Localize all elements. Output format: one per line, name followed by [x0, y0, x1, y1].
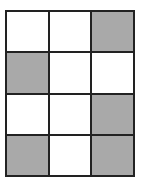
grid-cell-r4-c2-empty [50, 136, 91, 175]
shading-grid [5, 10, 135, 177]
grid-cell-r2-c1-shaded [7, 53, 48, 92]
grid-cell-r3-c1-empty [7, 95, 48, 134]
grid-cell-r4-c3-shaded [92, 136, 133, 175]
grid-cell-r4-c1-shaded [7, 136, 48, 175]
grid-cell-r3-c2-empty [50, 95, 91, 134]
grid-cell-r1-c2-empty [50, 12, 91, 51]
grid-cell-r1-c3-shaded [92, 12, 133, 51]
grid-cell-r2-c2-empty [50, 53, 91, 92]
grid-cell-r2-c3-empty [92, 53, 133, 92]
grid-cell-r1-c1-empty [7, 12, 48, 51]
grid-cell-r3-c3-shaded [92, 95, 133, 134]
